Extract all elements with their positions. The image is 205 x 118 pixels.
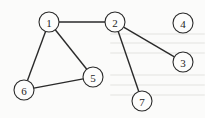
node-6: 6 — [14, 80, 34, 100]
node-label: 1 — [46, 17, 52, 29]
node-7: 7 — [132, 91, 152, 111]
node-5: 5 — [83, 67, 103, 87]
edge-2-7 — [118, 31, 139, 91]
node-label: 4 — [180, 18, 186, 30]
node-2: 2 — [105, 12, 125, 32]
edge-2-3 — [124, 27, 175, 57]
node-4: 4 — [173, 13, 193, 33]
node-label: 2 — [112, 17, 118, 29]
edge-1-6 — [27, 31, 45, 80]
node-label: 5 — [90, 72, 96, 84]
node-3: 3 — [173, 52, 193, 72]
undirected-graph: 1234567 — [0, 0, 205, 118]
node-layer: 1234567 — [14, 12, 193, 111]
node-1: 1 — [39, 12, 59, 32]
node-label: 3 — [180, 57, 186, 69]
graph-canvas: 1234567 — [0, 0, 205, 118]
edge-6-5 — [34, 79, 83, 88]
node-label: 6 — [21, 85, 27, 97]
node-label: 7 — [139, 96, 145, 108]
edge-1-5 — [55, 30, 87, 69]
